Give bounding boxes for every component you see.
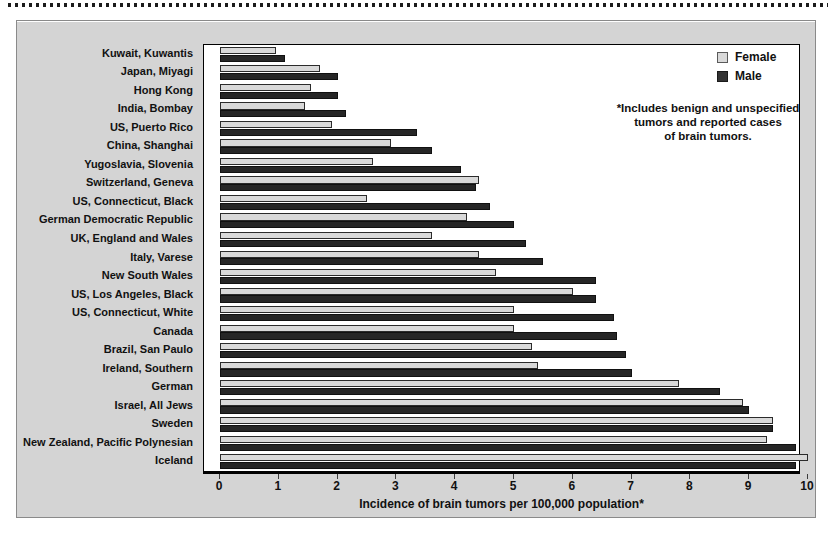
bar-female xyxy=(220,362,538,369)
category-label: Switzerland, Geneva xyxy=(86,177,193,188)
category-label: Yugoslavia, Slovenia xyxy=(84,159,193,170)
category-label: New South Wales xyxy=(102,270,193,281)
category-label: US, Los Angeles, Black xyxy=(71,289,193,300)
footnote-line-2: tumors and reported cases xyxy=(615,115,801,129)
figure-panel: Kuwait, KuwantisJapan, MiyagiHong KongIn… xyxy=(16,20,816,518)
bar-female xyxy=(220,454,808,461)
top-dotted-divider xyxy=(8,3,828,7)
category-label: German Democratic Republic xyxy=(39,214,193,225)
bar-male xyxy=(220,129,417,136)
bar-male xyxy=(220,147,432,154)
bar-male xyxy=(220,110,346,117)
bar-female xyxy=(220,65,320,72)
bar-male xyxy=(220,240,526,247)
category-axis-labels: Kuwait, KuwantisJapan, MiyagiHong KongIn… xyxy=(17,44,199,472)
category-label: US, Connecticut, Black xyxy=(73,196,193,207)
legend-item-male: Male xyxy=(617,69,787,83)
bar-female xyxy=(220,343,532,350)
category-label: Israel, All Jews xyxy=(115,400,193,411)
chart-page: Kuwait, KuwantisJapan, MiyagiHong KongIn… xyxy=(0,0,833,539)
bar-male xyxy=(220,406,749,413)
bar-male xyxy=(220,462,796,469)
x-axis-line xyxy=(203,472,800,474)
bar-female xyxy=(220,417,773,424)
category-label: India, Bombay xyxy=(118,103,193,114)
x-axis-tick-label: 4 xyxy=(451,480,458,493)
bar-female xyxy=(220,325,514,332)
x-axis-tick-label: 9 xyxy=(745,480,752,493)
bar-female xyxy=(220,195,367,202)
category-label: US, Puerto Rico xyxy=(110,122,193,133)
x-axis-tick-label: 0 xyxy=(216,480,223,493)
bar-female xyxy=(220,47,276,54)
bar-male xyxy=(220,73,338,80)
bar-male xyxy=(220,388,720,395)
category-label: Ireland, Southern xyxy=(103,363,193,374)
legend-item-female: Female xyxy=(617,50,787,64)
x-axis-tick-label: 3 xyxy=(392,480,399,493)
category-label: New Zealand, Pacific Polynesian xyxy=(23,437,193,448)
category-label: UK, England and Wales xyxy=(71,233,193,244)
category-label: Hong Kong xyxy=(134,85,193,96)
bar-female xyxy=(220,84,311,91)
chart-footnote: *Includes benign and unspecified tumors … xyxy=(615,101,801,143)
bar-female xyxy=(220,213,467,220)
bar-male xyxy=(220,166,461,173)
x-axis-tick-label: 2 xyxy=(333,480,340,493)
bar-female xyxy=(220,306,514,313)
bar-female xyxy=(220,158,373,165)
bar-male xyxy=(220,184,476,191)
legend-label-female: Female xyxy=(735,50,787,64)
category-label: Sweden xyxy=(151,418,193,429)
footnote-line-3: of brain tumors. xyxy=(615,129,801,143)
chart-legend: Female Male xyxy=(617,50,787,88)
footnote-line-1: *Includes benign and unspecified xyxy=(615,101,801,115)
category-label: Kuwait, Kuwantis xyxy=(102,48,193,59)
category-label: China, Shanghai xyxy=(107,140,193,151)
bar-female xyxy=(220,176,479,183)
bar-male xyxy=(220,203,490,210)
legend-label-male: Male xyxy=(735,69,787,83)
category-label: Brazil, San Paulo xyxy=(104,344,193,355)
category-label: Italy, Varese xyxy=(130,252,193,263)
x-axis-tick-label: 1 xyxy=(274,480,281,493)
category-label: Canada xyxy=(153,326,193,337)
bar-male xyxy=(220,425,773,432)
x-axis-tick-label: 10 xyxy=(800,480,813,493)
bar-male xyxy=(220,221,514,228)
category-label: Japan, Miyagi xyxy=(121,66,193,77)
bar-female xyxy=(220,139,391,146)
legend-swatch-male-icon xyxy=(717,71,728,82)
category-label: Iceland xyxy=(155,455,193,466)
bar-female xyxy=(220,102,305,109)
bar-male xyxy=(220,258,543,265)
bar-female xyxy=(220,232,432,239)
bar-male xyxy=(220,444,796,451)
legend-swatch-female-icon xyxy=(717,52,728,63)
bar-female xyxy=(220,436,767,443)
bar-male xyxy=(220,295,596,302)
bar-male xyxy=(220,277,596,284)
bar-male xyxy=(220,369,632,376)
bar-male xyxy=(220,92,338,99)
bar-female xyxy=(220,380,679,387)
bar-female xyxy=(220,121,332,128)
x-axis-tick-label: 8 xyxy=(686,480,693,493)
bar-female xyxy=(220,251,479,258)
category-label: US, Connecticut, White xyxy=(72,307,193,318)
bar-female xyxy=(220,399,743,406)
bar-male xyxy=(220,332,617,339)
x-axis-tick-label: 7 xyxy=(627,480,634,493)
x-axis-tick-label: 5 xyxy=(510,480,517,493)
category-label: German xyxy=(151,381,193,392)
bar-male xyxy=(220,314,614,321)
bar-female xyxy=(220,288,573,295)
x-axis-title: Incidence of brain tumors per 100,000 po… xyxy=(203,497,800,511)
bar-male xyxy=(220,55,285,62)
x-axis-tick-label: 6 xyxy=(568,480,575,493)
bar-female xyxy=(220,269,496,276)
bar-male xyxy=(220,351,626,358)
